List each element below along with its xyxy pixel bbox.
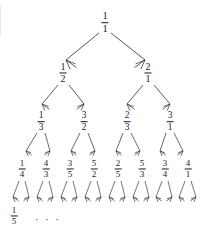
edges-level-3-to-4 [13,181,196,202]
fraction: 1 1 [101,11,108,34]
tree-node-1-1: 1 1 [101,11,108,35]
edge-2-1-to-2-3 [127,85,143,111]
tree-node-1-3: 1 3 [38,111,45,133]
tree-node-2-5: 2 5 [115,159,122,180]
fraction: 2 1 [145,62,152,84]
tree-node-5-3: 5 3 [139,159,146,180]
tree-edges-layer [0,0,210,239]
edge-2-3-to-5-3 [131,133,140,156]
edge-3-1-to-3-4 [160,133,166,156]
edge-1-1-to-1-2 [66,33,99,69]
edge-1-1-to-2-1 [111,33,145,69]
tree-node-5-2: 5 2 [91,159,98,180]
tree-node-2-1: 2 1 [145,62,152,85]
fraction: 3 1 [167,111,174,132]
fraction: 1 2 [60,62,67,84]
tree-node-4-1: 4 1 [185,159,192,180]
fraction: 2 5 [115,159,122,179]
edge-2-1-to-3-1 [154,85,170,111]
fraction: 4 1 [185,159,192,179]
tree-node-3-1: 3 1 [167,111,174,133]
edge-3-1-to-4-1 [174,133,183,156]
tree-node-4-3: 4 3 [43,159,50,180]
tree-node-1-2: 1 2 [60,62,67,85]
tree-node-2-3: 2 3 [124,111,131,133]
edge-3-2-to-5-2 [88,133,95,156]
fraction: 2 3 [124,111,131,132]
tree-node-3-2: 3 2 [81,111,88,133]
edge-1-3-to-4-3 [44,133,50,156]
tree-node-1-4: 1 4 [19,159,26,180]
tree-node-1-5: 1 5 [11,206,18,227]
fraction: 5 3 [139,159,146,179]
fraction: 1 5 [11,206,18,226]
edge-3-2-to-3-5 [71,133,80,156]
fraction: 3 2 [81,111,88,132]
fraction: 5 2 [91,159,98,179]
calkin-wilf-tree-figure: 1 1 1 2 2 1 1 3 3 2 2 3 [0,0,210,239]
fraction: 3 5 [67,159,74,179]
edge-1-2-to-3-2 [69,85,84,111]
edge-2-3-to-2-5 [116,133,123,156]
continuation-ellipsis: · · · [35,214,61,225]
fraction: 1 3 [38,111,45,132]
fraction: 4 3 [43,159,50,179]
edge-1-3-to-1-4 [26,133,37,156]
tree-node-3-5: 3 5 [67,159,74,180]
edge-1-2-to-1-3 [42,85,58,111]
fraction: 3 4 [162,159,169,179]
fraction: 1 4 [19,159,26,179]
tree-node-3-4: 3 4 [162,159,169,180]
